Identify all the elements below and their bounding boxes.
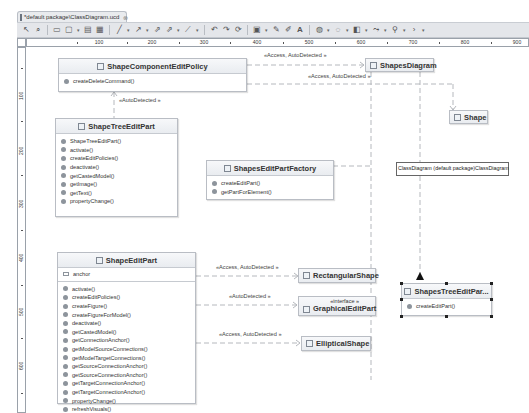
- method-item[interactable]: createFigure(): [63, 302, 190, 311]
- note-icon[interactable]: ▢: [64, 25, 74, 35]
- method-item[interactable]: getImage(): [61, 180, 172, 189]
- class-rectangular-shape[interactable]: RectangularShape: [298, 268, 376, 283]
- method-item[interactable]: createEditPolicies(): [63, 293, 190, 302]
- method-item[interactable]: createFigureForModel(): [63, 310, 190, 319]
- route-icon[interactable]: ⤳: [371, 25, 381, 35]
- method-item[interactable]: getTargetConnectionAnchor(): [63, 379, 190, 388]
- method-item[interactable]: getSourceConnectionAnchor(): [63, 371, 190, 380]
- layer-icon[interactable]: ◧: [352, 25, 362, 35]
- method-item[interactable]: deactivate(): [63, 319, 190, 328]
- class-header: ShapeTreeEditPart: [56, 119, 177, 134]
- package-icon[interactable]: ▦: [95, 25, 105, 35]
- field-item[interactable]: anchor: [63, 270, 190, 279]
- method-icon: [63, 407, 68, 412]
- dropdown-arrow-icon[interactable]: ▾: [145, 27, 150, 33]
- ruler-tick: [491, 42, 492, 44]
- method-item[interactable]: propertyChange(): [61, 197, 172, 206]
- method-item[interactable]: propertyChange(): [63, 396, 190, 405]
- method-item[interactable]: createEditPolicies(): [61, 154, 172, 163]
- method-item[interactable]: ShapeTreeEditPart(): [61, 137, 172, 146]
- class-icon[interactable]: ▤: [83, 25, 93, 35]
- dependency-icon[interactable]: ⟋: [183, 25, 193, 35]
- brush-icon[interactable]: ✐: [283, 25, 293, 35]
- class-shape-edit-part[interactable]: ShapeEditPart anchor activate() createEd…: [57, 252, 196, 404]
- class-shape[interactable]: Shape: [449, 110, 488, 124]
- class-methods: createEditPart() getPartForElement(): [207, 176, 333, 199]
- method-item[interactable]: refreshVisuals(): [63, 405, 190, 413]
- horizontal-ruler[interactable]: 100 200 300 400 500 600 700 800 900: [26, 38, 529, 47]
- more-icon[interactable]: ›: [409, 25, 419, 35]
- dropdown-arrow-icon[interactable]: ▾: [195, 27, 200, 33]
- method-item[interactable]: getModelTargetConnections(): [63, 353, 190, 362]
- dropdown-arrow-icon[interactable]: ▾: [345, 27, 350, 33]
- ruler-label: 200: [18, 147, 24, 155]
- method-item[interactable]: getCastedModel(): [63, 328, 190, 337]
- method-icon: [63, 295, 68, 300]
- inheritance-icon[interactable]: ⇗: [164, 25, 174, 35]
- method-icon: [63, 364, 68, 369]
- method-icon: [63, 381, 68, 386]
- select-icon[interactable]: ↖: [21, 25, 31, 35]
- editor-tab[interactable]: *default package\ClassDiagram.ucd ⊗: [17, 11, 127, 22]
- method-item[interactable]: getConnectionAnchor(): [63, 336, 190, 345]
- method-item[interactable]: createEditPart(): [407, 302, 486, 311]
- pen-icon[interactable]: ✎: [271, 25, 281, 35]
- line-color-icon[interactable]: ◌: [333, 25, 343, 35]
- class-fields: anchor: [58, 268, 195, 281]
- class-shapes-tree-edit-part[interactable]: ShapesTreeEditPar... createEditPart(): [401, 283, 492, 316]
- edge-label: «AutoDetected »: [119, 97, 161, 103]
- layout-icon[interactable]: ▣: [252, 25, 262, 35]
- dropdown-arrow-icon[interactable]: ▾: [402, 27, 407, 33]
- class-icon: [78, 123, 85, 130]
- dropdown-arrow-icon[interactable]: ▾: [383, 27, 388, 33]
- ruler-tick: [21, 230, 23, 231]
- refresh-icon[interactable]: ⟳: [233, 25, 243, 35]
- class-name: ShapesEditPartFactory: [234, 164, 317, 173]
- method-item[interactable]: createDeleteCommand(): [64, 77, 241, 86]
- dropdown-arrow-icon[interactable]: ▾: [126, 27, 131, 33]
- undo-icon[interactable]: ↶: [209, 25, 219, 35]
- class-shapes-diagram[interactable]: ShapesDiagram: [365, 58, 434, 72]
- class-name: ShapesDiagram: [380, 61, 437, 70]
- class-name: ShapeComponentEditPolicy: [107, 62, 207, 71]
- ruler-tick: [179, 42, 180, 44]
- class-icon: [96, 257, 103, 264]
- close-tab-icon[interactable]: ⊗: [123, 14, 128, 21]
- ruler-label: 200: [148, 39, 156, 45]
- arrow-icon[interactable]: ↗: [133, 25, 143, 35]
- dropdown-arrow-icon[interactable]: ▾: [76, 27, 81, 33]
- vertical-ruler[interactable]: 100 200 300 400 500 600: [17, 47, 26, 413]
- zoom-icon[interactable]: ⌕: [33, 25, 43, 35]
- class-elliptical-shape[interactable]: EllipticalShape: [301, 336, 371, 351]
- method-item[interactable]: deactivate(): [61, 163, 172, 172]
- interface-graphical-edit-part[interactable]: «interface » GraphicalEditPart: [298, 296, 376, 316]
- class-name: ShapesTreeEditPar...: [414, 287, 488, 296]
- rectangle-icon[interactable]: ▭: [52, 25, 62, 35]
- dropdown-arrow-icon[interactable]: ▾: [364, 27, 369, 33]
- diagram-canvas[interactable]: ShapeComponentEditPolicy createDeleteCom…: [0, 0, 529, 413]
- font-icon[interactable]: A: [295, 25, 305, 35]
- method-item[interactable]: getCastedModel(): [61, 171, 172, 180]
- arrange-icon[interactable]: ⚲: [390, 25, 400, 35]
- line-icon[interactable]: ╱: [114, 25, 124, 35]
- method-item[interactable]: getText(): [61, 189, 172, 198]
- redo-icon[interactable]: ↷: [221, 25, 231, 35]
- method-item[interactable]: activate(): [61, 146, 172, 155]
- method-item[interactable]: getModelSourceConnections(): [63, 345, 190, 354]
- method-item[interactable]: activate(): [63, 285, 190, 294]
- class-icon: [224, 165, 231, 172]
- method-item[interactable]: createEditPart(): [212, 179, 328, 188]
- class-shapes-edit-part-factory[interactable]: ShapesEditPartFactory createEditPart() g…: [206, 160, 334, 200]
- diagram-note[interactable]: ClassDiagram (default package)ClassDiagr…: [396, 162, 509, 176]
- method-item[interactable]: getTargetConnectionAnchor(): [63, 388, 190, 397]
- method-item[interactable]: getSourceConnectionAnchor(): [63, 362, 190, 371]
- dropdown-arrow-icon[interactable]: ▾: [176, 27, 181, 33]
- class-shape-tree-edit-part[interactable]: ShapeTreeEditPart ShapeTreeEditPart() ac…: [55, 118, 178, 217]
- dropdown-arrow-icon[interactable]: ▾: [326, 27, 331, 33]
- dropdown-arrow-icon[interactable]: ▾: [421, 27, 426, 33]
- association-icon[interactable]: ⇗: [152, 25, 162, 35]
- class-shape-component-edit-policy[interactable]: ShapeComponentEditPolicy createDeleteCom…: [58, 58, 247, 92]
- dropdown-arrow-icon[interactable]: ▾: [264, 27, 269, 33]
- fill-color-icon[interactable]: ◍: [314, 25, 324, 35]
- method-item[interactable]: getPartForElement(): [212, 188, 328, 197]
